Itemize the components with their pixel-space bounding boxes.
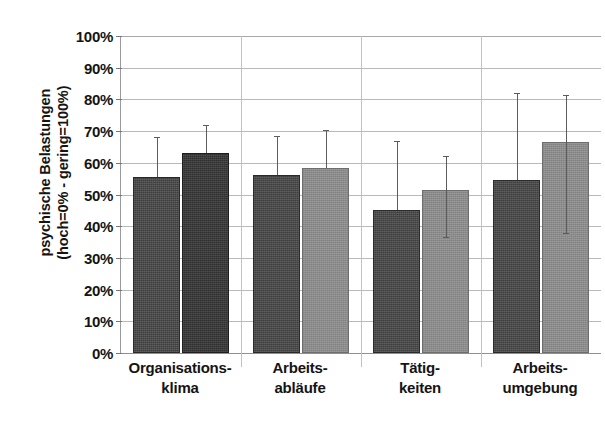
y-tick-mark-50 [116, 195, 122, 196]
y-tick-mark-30 [116, 258, 122, 259]
y-tick-label-60%: 60% [84, 154, 113, 171]
y-tick-mark-80 [116, 99, 122, 100]
category-separator [241, 36, 242, 367]
error-bar-cap-upper [394, 141, 400, 142]
category-separator [361, 36, 362, 367]
y-axis-title-line-1: psychische Belastungen [37, 23, 55, 323]
error-bar-cap-lower [443, 237, 449, 238]
x-axis-category-labels: Organisations-klimaArbeits-abläufeTätig-… [120, 358, 600, 428]
bar-arbeitsumgebung-series1 [493, 180, 540, 353]
bar-arbeitsabläufe-series1 [253, 175, 300, 353]
bar-tätigkeiten-series1 [373, 210, 420, 353]
y-tick-label-90%: 90% [84, 59, 113, 76]
error-bar-stem [517, 93, 518, 180]
y-tick-label-40%: 40% [84, 218, 113, 235]
y-tick-mark-10 [116, 321, 122, 322]
error-bar-stem [157, 137, 158, 177]
x-category-label-1: Organisations-klima [110, 358, 250, 397]
error-bar-cap-upper [154, 137, 160, 138]
error-bar-cap-upper [323, 130, 329, 131]
error-bar-cap-upper [563, 95, 569, 96]
error-bar-cap-upper [514, 93, 520, 94]
y-tick-label-100%: 100% [76, 28, 113, 45]
error-bar-stem [326, 130, 327, 168]
x-category-label-line: umgebung [470, 378, 605, 398]
y-tick-mark-20 [116, 290, 122, 291]
y-tick-label-10%: 10% [84, 313, 113, 330]
x-category-label-line: keiten [350, 378, 490, 398]
x-category-label-line: Arbeits- [512, 359, 567, 376]
error-bar-cap-upper [274, 136, 280, 137]
y-tick-label-50%: 50% [84, 186, 113, 203]
x-category-label-3: Tätig-keiten [350, 358, 490, 397]
x-category-label-line: Tätig- [400, 359, 440, 376]
x-category-label-line: klima [110, 378, 250, 398]
error-bar-stem [277, 136, 278, 176]
y-tick-mark-90 [116, 68, 122, 69]
y-tick-mark-70 [116, 131, 122, 132]
error-bar-cap-lower [563, 233, 569, 234]
x-category-label-line: abläufe [230, 378, 370, 398]
error-bar-cap-upper [443, 156, 449, 157]
x-category-label-4: Arbeits-umgebung [470, 358, 605, 397]
bar-organisationsklima-series2 [182, 153, 229, 353]
y-tick-mark-40 [116, 226, 122, 227]
bar-arbeitsabläufe-series2 [302, 168, 349, 353]
x-category-label-line: Organisations- [128, 359, 231, 376]
plot-area [120, 36, 601, 353]
x-category-label-line: Arbeits- [272, 359, 327, 376]
y-tick-label-20%: 20% [84, 281, 113, 298]
error-bar-stem [566, 95, 567, 233]
error-bar-stem [446, 156, 447, 237]
error-bar-stem [397, 141, 398, 211]
y-tick-mark-60 [116, 163, 122, 164]
y-tick-mark-100 [116, 36, 122, 37]
bar-organisationsklima-series1 [133, 177, 180, 353]
category-separator [481, 36, 482, 367]
y-tick-label-30%: 30% [84, 249, 113, 266]
y-tick-mark-0 [116, 353, 122, 354]
y-tick-label-70%: 70% [84, 123, 113, 140]
y-axis-tick-labels: 0%10%20%30%40%50%60%70%80%90%100% [56, 0, 113, 430]
x-category-label-2: Arbeits-abläufe [230, 358, 370, 397]
error-bar-stem [206, 125, 207, 154]
error-bar-cap-upper [203, 125, 209, 126]
chart-figure: psychische Belastungen (hoch=0% - gering… [0, 0, 605, 430]
y-tick-label-80%: 80% [84, 91, 113, 108]
